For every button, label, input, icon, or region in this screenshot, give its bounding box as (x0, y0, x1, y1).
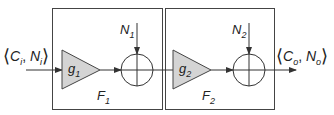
gain-label-g2: g2 (179, 61, 191, 79)
output-label: ⟨Co, No⟩ (276, 44, 328, 67)
block-label-f2: F2 (202, 88, 215, 106)
noise-label-n2: N2 (232, 22, 246, 40)
noise-label-n1: N1 (120, 22, 134, 40)
input-label: ⟨Ci, Ni⟩ (3, 44, 49, 67)
gain-label-g1: g1 (68, 61, 80, 79)
block-label-f1: F1 (97, 88, 110, 106)
